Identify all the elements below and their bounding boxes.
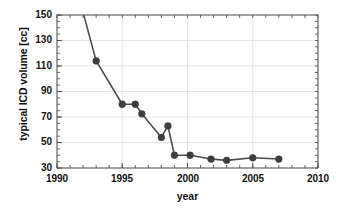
chart-figure: typical ICD volume [cc] 150 130 110 90 7… xyxy=(0,0,345,212)
gridlines xyxy=(57,15,318,168)
plot-area xyxy=(0,0,345,212)
